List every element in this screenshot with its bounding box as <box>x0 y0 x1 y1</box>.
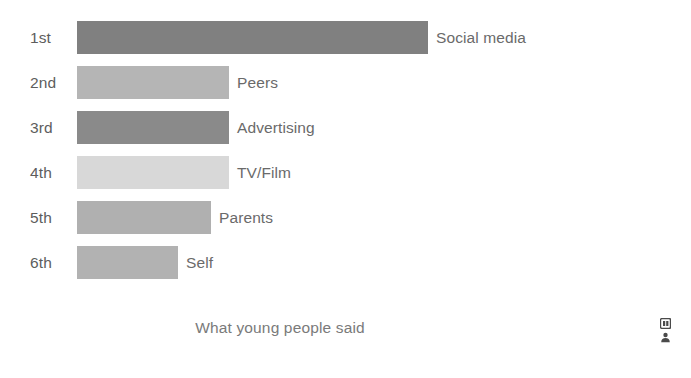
chart-plot-area: 1stSocial media2ndPeers3rdAdvertising4th… <box>0 0 691 300</box>
bar-row: 3rdAdvertising <box>0 111 691 144</box>
bar-rank-label: 1st <box>30 21 70 54</box>
bar-segment <box>77 156 229 189</box>
bar-segment <box>77 246 178 279</box>
bar-rank-label: 5th <box>30 201 70 234</box>
bar-row: 5thParents <box>0 201 691 234</box>
bar-value-label: Parents <box>219 201 273 234</box>
bar-rank-label: 6th <box>30 246 70 279</box>
bar-segment <box>77 111 229 144</box>
person-icon <box>660 332 671 343</box>
bar-value-label: Social media <box>436 21 526 54</box>
bar-segment <box>77 21 428 54</box>
bar-value-label: Self <box>186 246 213 279</box>
bar-row: 6thSelf <box>0 246 691 279</box>
bar-rank-label: 2nd <box>30 66 70 99</box>
bar-value-label: TV/Film <box>237 156 291 189</box>
image-thumbnail-icon <box>660 318 671 329</box>
bar-value-label: Peers <box>237 66 278 99</box>
bar-rank-label: 3rd <box>30 111 70 144</box>
bar-segment <box>77 201 211 234</box>
bar-row: 4thTV/Film <box>0 156 691 189</box>
bar-row: 2ndPeers <box>0 66 691 99</box>
bar-segment <box>77 66 229 99</box>
corner-icon-group <box>657 318 673 343</box>
bar-value-label: Advertising <box>237 111 315 144</box>
bar-row: 1stSocial media <box>0 21 691 54</box>
bar-rank-label: 4th <box>30 156 70 189</box>
bar-chart-figure: 1stSocial media2ndPeers3rdAdvertising4th… <box>0 0 691 378</box>
chart-caption: What young people said <box>0 319 560 337</box>
